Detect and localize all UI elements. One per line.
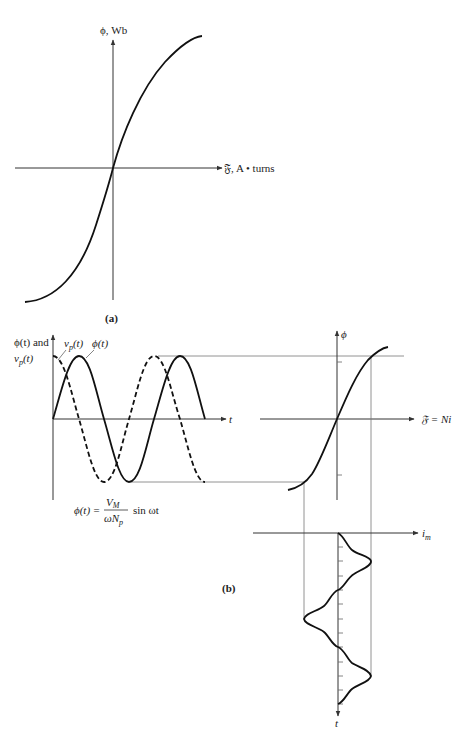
- current-plot-im-label: im: [422, 527, 431, 542]
- fig-a-x-axis-label: 𝔉, A • turns: [224, 162, 275, 174]
- denominator-sub: p: [118, 518, 123, 527]
- figure-b-current-plot: im t: [253, 527, 431, 729]
- current-plot-ticks: [338, 547, 343, 704]
- time-plot-t-label: t: [229, 413, 233, 425]
- equation-lhs: ϕ(t) =: [74, 504, 100, 517]
- denominator-wn: ωN: [104, 512, 120, 524]
- flux-equation: ϕ(t) = VM ωNp sin ωt: [74, 496, 159, 527]
- mag-plot-phi-label: ϕ: [341, 328, 347, 340]
- figure-b-magnetization-plot: ϕ 𝔉 = Ni: [260, 328, 451, 676]
- fig-a-caption: (a): [105, 312, 118, 325]
- time-plot-y-label: ϕ(t) and: [14, 336, 49, 349]
- equation-numerator: VM: [106, 496, 121, 510]
- y-label-line1: ϕ(t) and: [14, 336, 49, 349]
- figure-b-time-plot: ϕ(t) and vp(t) vp(t) ϕ(t) t ϕ(t) = VM ωN…: [14, 335, 404, 527]
- fig-b-caption: (b): [222, 582, 236, 595]
- magnetization-diagram: ϕ, Wb 𝔉, A • turns (a) ϕ(t) and vp(t) vp…: [0, 0, 468, 744]
- current-plot-t-label: t: [335, 717, 339, 729]
- equation-denominator: ωNp: [104, 512, 123, 527]
- phi-label-leader: [86, 350, 94, 358]
- equation-rhs: sin ωt: [133, 504, 159, 516]
- y-label-rest: (t): [23, 352, 34, 365]
- phi-series-label: ϕ(t): [92, 337, 108, 350]
- figure-a: ϕ, Wb 𝔉, A • turns (a): [15, 24, 275, 325]
- im-label-sub: m: [425, 533, 431, 542]
- vp-label-rest: (t): [73, 337, 84, 350]
- vp-label-leader: [58, 350, 66, 360]
- mag-plot-f-label: 𝔉 = Ni: [421, 413, 451, 425]
- vp-series-label: vp(t): [64, 337, 84, 352]
- numerator-sub: M: [112, 501, 121, 510]
- fig-a-y-axis-label: ϕ, Wb: [100, 24, 128, 36]
- time-plot-y-label-line2: vp(t): [14, 352, 34, 367]
